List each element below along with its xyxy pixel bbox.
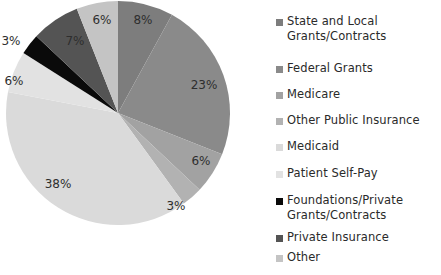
slice-percent-label: 38% xyxy=(45,177,72,191)
legend-swatch-icon xyxy=(276,66,283,73)
legend-item-patient-self-pay: Patient Self-Pay xyxy=(276,166,378,181)
legend-item-medicare: Medicare xyxy=(276,87,340,102)
slice-percent-label: 23% xyxy=(191,78,218,92)
legend-item-federal-grants: Federal Grants xyxy=(276,61,373,76)
legend-swatch-icon xyxy=(276,144,283,151)
legend-label: Private Insurance xyxy=(287,230,389,245)
legend-item-other-public-insurance: Other Public Insurance xyxy=(276,113,420,128)
slice-percent-label: 6% xyxy=(92,13,111,27)
legend-item-medicaid: Medicaid xyxy=(276,139,339,154)
legend-swatch-icon xyxy=(276,255,283,262)
legend-item-other: Other xyxy=(276,250,320,265)
legend-label: Medicaid xyxy=(287,139,339,154)
legend-swatch-icon xyxy=(276,198,283,205)
legend-label: Patient Self-Pay xyxy=(287,166,378,181)
pie-slices xyxy=(6,1,230,225)
legend-label: Other Public Insurance xyxy=(287,113,420,128)
legend-label: Medicare xyxy=(287,87,340,102)
legend-label: State and Local Grants/Contracts xyxy=(287,14,386,44)
slice-percent-label: 8% xyxy=(133,13,152,27)
slice-percent-label: 3% xyxy=(1,34,20,48)
pie-chart: 8%23%6%3%38%6%3%7%6% xyxy=(0,0,240,240)
legend-label: Other xyxy=(287,250,320,265)
slice-percent-label: 7% xyxy=(65,34,84,48)
legend-swatch-icon xyxy=(276,92,283,99)
slice-percent-label: 6% xyxy=(4,74,23,88)
legend-swatch-icon xyxy=(276,19,283,26)
legend-swatch-icon xyxy=(276,171,283,178)
legend-label: Federal Grants xyxy=(287,61,373,76)
legend-item-state-local-grants: State and Local Grants/Contracts xyxy=(276,14,386,44)
legend-label: Foundations/Private Grants/Contracts xyxy=(287,193,403,223)
slice-percent-label: 3% xyxy=(166,199,185,213)
legend-swatch-icon xyxy=(276,118,283,125)
legend-swatch-icon xyxy=(276,235,283,242)
legend-item-private-insurance: Private Insurance xyxy=(276,230,389,245)
legend-item-foundations-private-grants: Foundations/Private Grants/Contracts xyxy=(276,193,403,223)
slice-percent-label: 6% xyxy=(191,154,210,168)
